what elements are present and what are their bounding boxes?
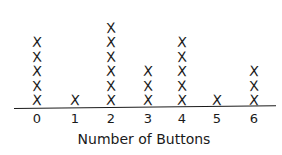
tick-label-6: 6 [244, 111, 264, 127]
x-mark-icon: X [138, 78, 159, 93]
x-mark-icon: X [101, 63, 122, 78]
tick-label-0: 0 [27, 111, 47, 127]
x-mark-icon: X [172, 49, 193, 64]
x-mark-icon: X [101, 78, 122, 93]
x-mark-icon: X [27, 49, 48, 64]
x-mark-icon: X [138, 92, 159, 107]
x-mark-icon: X [244, 78, 265, 93]
line-plot: XXXXXXXXXXXXXXXXXXXXXXXX 0 1 2 3 4 5 6 N… [0, 0, 282, 155]
x-mark-icon: X [101, 92, 122, 107]
x-mark-icon: X [27, 63, 48, 78]
tick-label-2: 2 [101, 111, 121, 127]
x-mark-icon: X [101, 49, 122, 64]
tick-label-1: 1 [65, 111, 85, 127]
x-mark-icon: X [172, 92, 193, 107]
x-mark-icon: X [27, 78, 48, 93]
x-mark-icon: X [244, 63, 265, 78]
x-mark-icon: X [172, 78, 193, 93]
tick-label-5: 5 [207, 111, 227, 127]
tick-label-4: 4 [172, 111, 192, 127]
x-mark-icon: X [27, 34, 48, 49]
x-mark-icon: X [244, 92, 265, 107]
x-axis-label: Number of Buttons [0, 130, 282, 148]
x-mark-icon: X [172, 34, 193, 49]
x-mark-icon: X [27, 92, 48, 107]
x-mark-icon: X [138, 63, 159, 78]
x-mark-icon: X [207, 92, 228, 107]
x-mark-icon: X [65, 92, 86, 107]
tick-label-3: 3 [138, 111, 158, 127]
x-mark-icon: X [172, 63, 193, 78]
x-mark-icon: X [101, 20, 122, 35]
x-mark-icon: X [101, 34, 122, 49]
